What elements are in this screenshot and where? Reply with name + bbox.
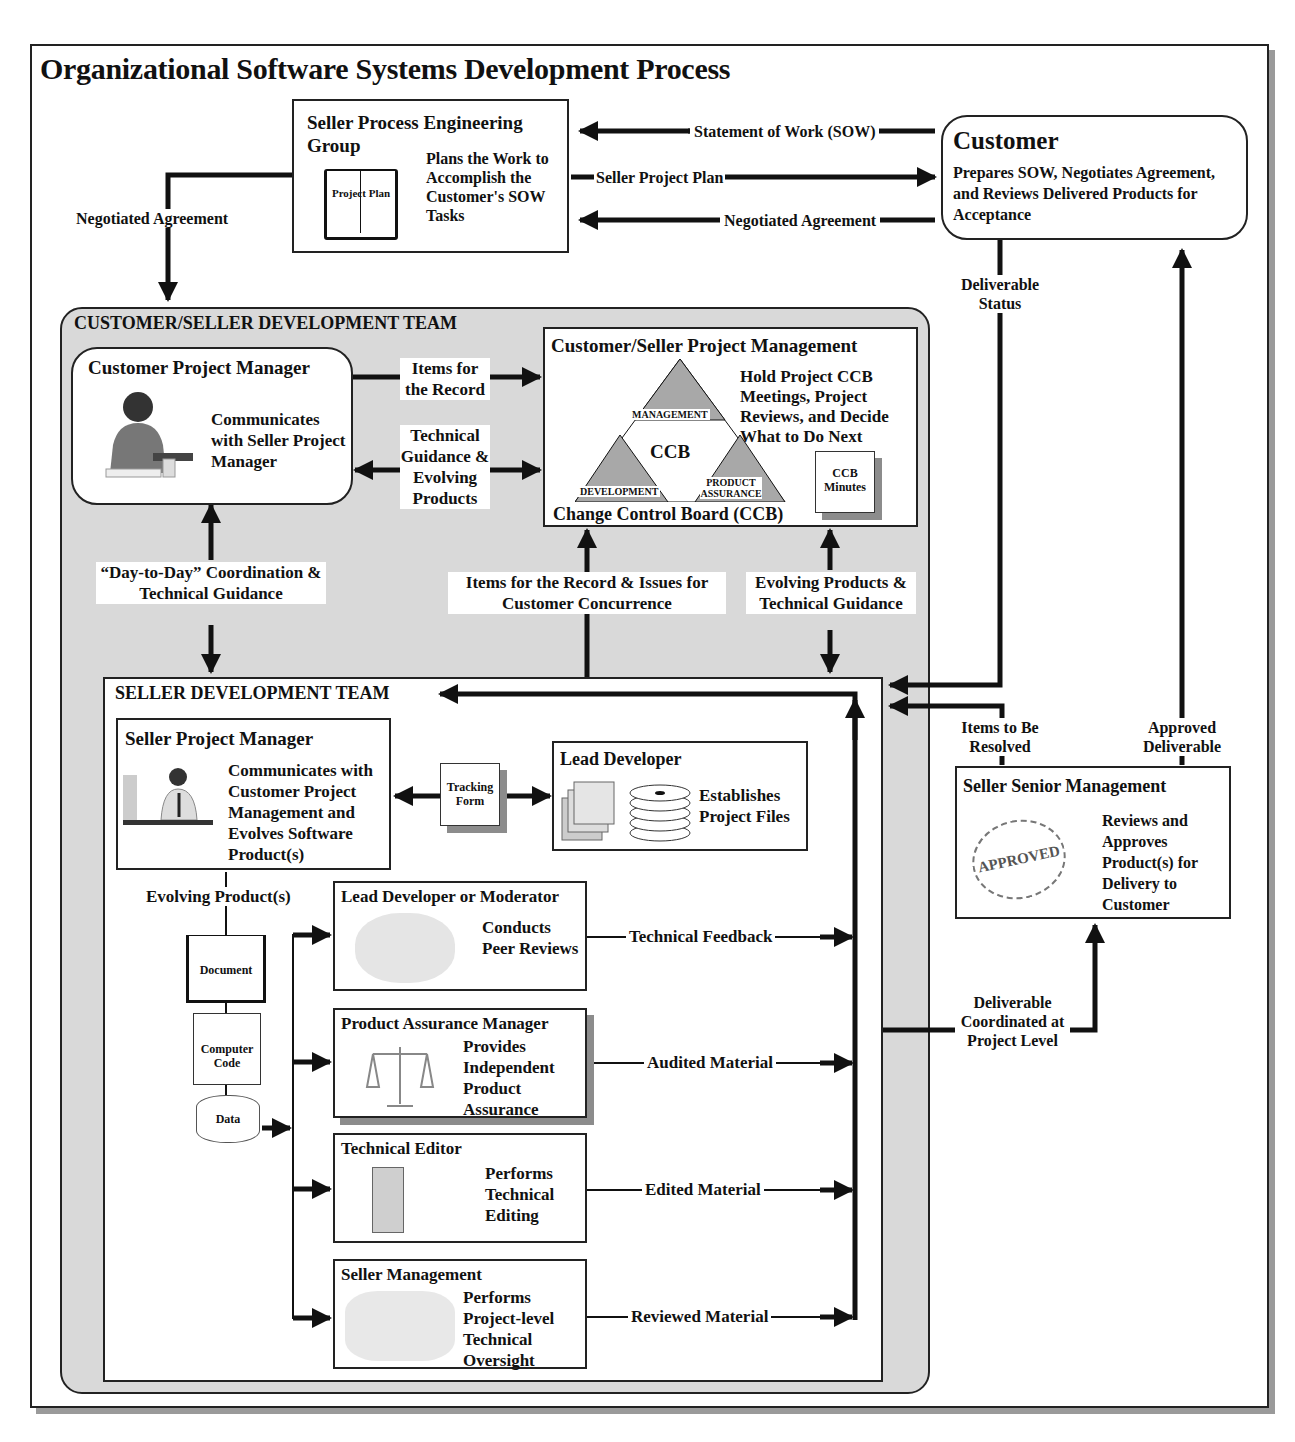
sow-label: Statement of Work (SOW)	[690, 122, 879, 141]
customer-pm-box: Customer Project Manager Communicates wi…	[71, 347, 353, 505]
project-management-box: Customer/Seller Project Management MANAG…	[543, 327, 918, 527]
reviewer-description: Performs Technical Editing	[485, 1163, 585, 1226]
reviewer-description: Provides Independent Product Assurance	[463, 1036, 583, 1120]
project-plan-book-icon: Project Plan	[324, 169, 398, 240]
reviewer-heading: Technical Editor	[341, 1139, 462, 1159]
customer-heading: Customer	[953, 127, 1059, 155]
peer-review-box: Lead Developer or Moderator Conducts Pee…	[333, 881, 587, 991]
negotiated-agreement-right-label: Negotiated Agreement	[720, 211, 880, 230]
project-management-heading: Customer/Seller Project Management	[551, 335, 857, 357]
seller-project-plan-label: Seller Project Plan	[594, 168, 725, 187]
tech-guidance-evolving-label: Technical Guidance & Evolving Products	[400, 425, 490, 509]
seller-pm-heading: Seller Project Manager	[125, 728, 313, 750]
seller-pm-box: Seller Project Manager Communicates with…	[116, 718, 391, 870]
data-disks-icon: Data	[196, 1095, 260, 1143]
customer-pm-heading: Customer Project Manager	[88, 357, 310, 379]
ccb-caption: Change Control Board (CCB)	[553, 504, 783, 525]
ccb-management-label: MANAGEMENT	[630, 409, 710, 420]
edited-material-label: Edited Material	[642, 1180, 764, 1199]
ccb-center-label: CCB	[650, 441, 690, 463]
senior-management-description: Reviews and Approves Product(s) for Deli…	[1102, 810, 1227, 915]
seller-pm-description: Communicates with Customer Project Manag…	[228, 760, 393, 865]
project-plan-label: Project Plan	[327, 187, 395, 200]
lead-developer-box: Lead Developer Establishes Project Files	[552, 741, 808, 851]
seller-process-engineering-group-box: Seller Process Engineering Group Project…	[292, 99, 569, 253]
evolving-products-label: Evolving Product(s)	[146, 887, 291, 906]
floppy-disk-icon: Computer Code	[193, 1013, 261, 1085]
edited-page-icon	[372, 1167, 404, 1233]
customer-pm-description: Communicates with Seller Project Manager	[211, 409, 351, 472]
ccb-product-assurance-label: PRODUCT ASSURANCE	[700, 477, 762, 499]
deliverable-status-label: Deliverable Status	[950, 275, 1050, 313]
customer-description: Prepares SOW, Negotiates Agreement, and …	[953, 162, 1243, 225]
ccb-minutes-icon: CCB Minutes	[815, 451, 875, 513]
negotiated-agreement-left-label: Negotiated Agreement	[76, 209, 228, 228]
items-for-record-label: Items for the Record	[400, 358, 490, 400]
reviewer-description: Performs Project-level Technical Oversig…	[463, 1287, 583, 1371]
audited-material-label: Audited Material	[644, 1053, 776, 1072]
approved-deliverable-label: Approved Deliverable	[1133, 718, 1231, 756]
day-to-day-label: “Day-to-Day” Coordination & Technical Gu…	[96, 562, 326, 604]
file-folders-and-disks-icon	[560, 778, 695, 846]
meeting-icon	[355, 913, 455, 983]
ccb-development-label: DEVELOPMENT	[578, 486, 660, 497]
document-icon: Document	[186, 935, 266, 1003]
project-management-description: Hold Project CCB Meetings, Project Revie…	[740, 367, 918, 447]
two-people-meeting-icon	[345, 1291, 455, 1361]
customer-box: Customer Prepares SOW, Negotiates Agreem…	[941, 115, 1248, 240]
lead-developer-description: Establishes Project Files	[699, 785, 809, 827]
seller-senior-management-box: Seller Senior Management APPROVED Review…	[955, 766, 1231, 919]
reviewer-heading: Lead Developer or Moderator	[341, 887, 559, 907]
man-on-phone-icon	[123, 765, 213, 830]
seller-management-box: Seller Management Performs Project-level…	[333, 1259, 587, 1369]
product-assurance-box: Product Assurance Manager Provides Indep…	[333, 1008, 587, 1118]
evolving-guidance-label: Evolving Products & Technical Guidance	[746, 572, 916, 614]
technical-editor-box: Technical Editor Performs Technical Edit…	[333, 1133, 587, 1243]
items-to-be-resolved-label: Items to Be Resolved	[950, 718, 1050, 756]
reviewer-heading: Seller Management	[341, 1265, 482, 1285]
reviewed-material-label: Reviewed Material	[628, 1307, 771, 1326]
lead-developer-heading: Lead Developer	[560, 749, 681, 770]
spe-description: Plans the Work to Accomplish the Custome…	[426, 149, 566, 225]
approved-stamp-icon: APPROVED	[965, 811, 1073, 908]
items-issues-label: Items for the Record & Issues for Custom…	[448, 572, 726, 614]
reviewer-description: Conducts Peer Reviews	[482, 917, 582, 959]
technical-feedback-label: Technical Feedback	[626, 927, 775, 946]
deliverable-coordinated-label: Deliverable Coordinated at Project Level	[955, 993, 1070, 1050]
senior-management-heading: Seller Senior Management	[963, 776, 1166, 797]
tracking-form-icon: Tracking Form	[440, 763, 500, 826]
woman-on-phone-icon	[98, 385, 198, 485]
scales-of-justice-icon	[365, 1042, 435, 1112]
reviewer-heading: Product Assurance Manager	[341, 1014, 548, 1034]
